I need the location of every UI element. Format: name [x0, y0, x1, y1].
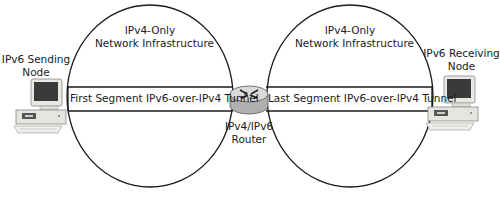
receiver-label-line1: IPv6 Receiving — [423, 47, 500, 60]
router-label: IPv4/IPv6 Router — [214, 120, 284, 146]
right-network-label: IPv4-Only Network Infrastructure — [295, 24, 405, 50]
sender-label: IPv6 Sending Node — [0, 53, 72, 79]
receiver-label-line2: Node — [423, 60, 500, 73]
right-network-label-line2: Network Infrastructure — [295, 37, 405, 50]
sender-computer-icon — [14, 79, 66, 133]
sender-label-line2: Node — [0, 66, 72, 79]
last-tunnel-label: Last Segment IPv6-over-IPv4 Tunnel — [268, 92, 430, 105]
first-tunnel-label: First Segment IPv6-over-IPv4 Tunnel — [70, 92, 232, 105]
receiver-label: IPv6 Receiving Node — [423, 47, 500, 73]
right-network-label-line1: IPv4-Only — [295, 24, 405, 37]
left-network-label-line1: IPv4-Only — [95, 24, 205, 37]
left-network-label: IPv4-Only Network Infrastructure — [95, 24, 205, 50]
sender-label-line1: IPv6 Sending — [0, 53, 72, 66]
router-label-line1: IPv4/IPv6 — [214, 120, 284, 133]
diagram-canvas: IPv4-Only Network Infrastructure IPv4-On… — [0, 0, 500, 199]
router-label-line2: Router — [214, 133, 284, 146]
left-network-label-line2: Network Infrastructure — [95, 37, 205, 50]
